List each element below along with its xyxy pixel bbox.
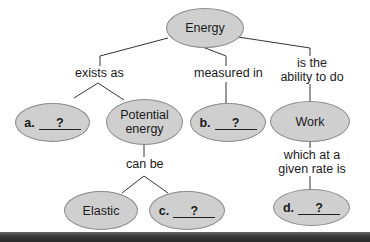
- link-is-the-line2: ability to do: [278, 70, 346, 84]
- node-b-blank[interactable]: b. ?: [190, 103, 266, 142]
- elastic-node: Elastic: [64, 191, 138, 230]
- node-d-blank[interactable]: d. ?: [273, 189, 350, 226]
- bottom-divider-bar: [0, 232, 370, 242]
- blank-b-answer[interactable]: ?: [215, 117, 257, 130]
- link-can-be: can be: [124, 157, 166, 171]
- link-which-at-a: which at a given rate is: [274, 148, 350, 176]
- link-rate-line2: given rate is: [276, 162, 348, 176]
- blank-d-answer[interactable]: ?: [298, 202, 340, 215]
- blank-b: b. ?: [199, 116, 256, 130]
- blank-c: c. ?: [159, 204, 215, 218]
- energy-node: Energy: [166, 8, 244, 48]
- link-is-the-line1: is the: [278, 56, 346, 70]
- link-exists-as: exists as: [73, 66, 126, 80]
- node-c-blank[interactable]: c. ?: [149, 191, 225, 230]
- link-is-the: is the ability to do: [276, 56, 348, 84]
- potential-line2: energy: [120, 122, 169, 136]
- blank-d: d. ?: [283, 201, 340, 215]
- node-a-blank[interactable]: a. ?: [15, 103, 90, 142]
- blank-a-letter: a.: [24, 116, 34, 130]
- potential-line1: Potential: [120, 108, 169, 122]
- blank-c-answer[interactable]: ?: [173, 205, 215, 218]
- elastic-label: Elastic: [83, 204, 120, 218]
- potential-energy-node: Potential energy: [106, 99, 183, 145]
- energy-label: Energy: [185, 21, 225, 35]
- work-node: Work: [270, 101, 350, 142]
- link-rate-line1: which at a: [276, 148, 348, 162]
- blank-c-letter: c.: [159, 204, 169, 218]
- blank-d-letter: d.: [283, 201, 294, 215]
- blank-a-answer[interactable]: ?: [39, 117, 81, 130]
- potential-energy-label: Potential energy: [120, 108, 169, 136]
- link-measured-in: measured in: [192, 66, 265, 80]
- blank-b-letter: b.: [199, 116, 210, 130]
- work-label: Work: [296, 115, 325, 129]
- blank-a: a. ?: [24, 116, 80, 130]
